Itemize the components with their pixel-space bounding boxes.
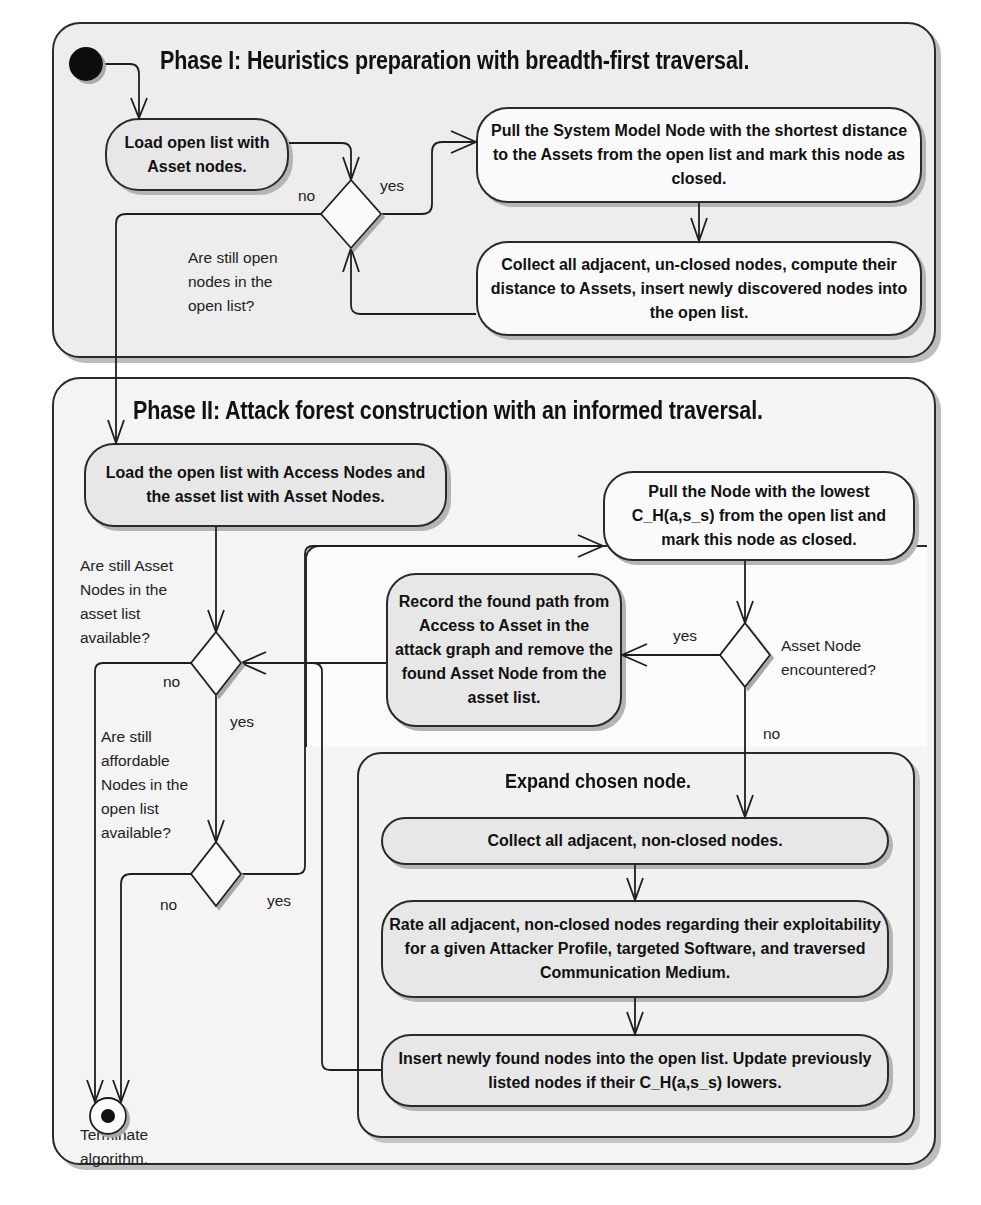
decision-assets-no-label: no: [163, 670, 180, 693]
phase1-no-label: no: [298, 184, 315, 207]
action-collect-adjacent-nodes[interactable]: Collect all adjacent, un-closed nodes, c…: [476, 241, 922, 336]
final-node-label: Terminate algorithm.: [80, 1123, 190, 1171]
action-record-found-path[interactable]: Record the found path from Access to Ass…: [386, 573, 622, 727]
decision-encountered-yes-label: yes: [673, 624, 697, 647]
decision-assets-question: Are still Asset Nodes in the asset list …: [80, 554, 200, 650]
phase2-title: Phase II: Attack forest construction wit…: [133, 396, 763, 425]
phase1-title: Phase I: Heuristics preparation with bre…: [160, 46, 749, 75]
decision-affordable-yes-label: yes: [267, 889, 291, 912]
phase1-decision-question: Are still open nodes in the open list?: [188, 246, 308, 318]
action-load-access-nodes[interactable]: Load the open list with Access Nodes and…: [84, 443, 447, 527]
action-pull-system-model-node[interactable]: Pull the System Model Node with the shor…: [476, 107, 922, 203]
action-insert-found-nodes[interactable]: Insert newly found nodes into the open l…: [381, 1034, 889, 1107]
decision-affordable-no-label: no: [160, 893, 177, 916]
decision-affordable-question: Are still affordable Nodes in the open l…: [101, 725, 197, 845]
action-rate-nodes[interactable]: Rate all adjacent, non-closed nodes rega…: [381, 900, 889, 998]
expand-title: Expand chosen node.: [505, 770, 691, 793]
decision-encountered-question: Asset Node encountered?: [781, 634, 921, 682]
action-collect-non-closed-nodes[interactable]: Collect all adjacent, non-closed nodes.: [381, 817, 889, 865]
decision-assets-yes-label: yes: [230, 710, 254, 733]
decision-encountered-no-label: no: [763, 722, 780, 745]
action-load-asset-nodes[interactable]: Load open list with Asset nodes.: [105, 118, 289, 191]
action-pull-lowest-node[interactable]: Pull the Node with the lowest C_H(a,s_s)…: [603, 471, 915, 561]
phase1-yes-label: yes: [380, 174, 404, 197]
